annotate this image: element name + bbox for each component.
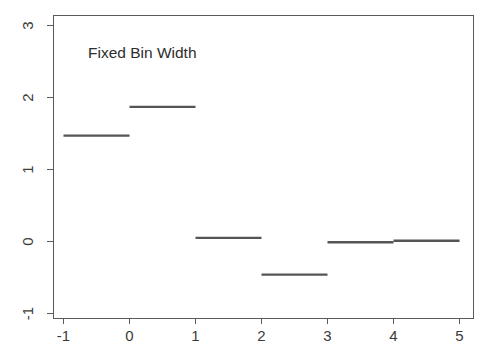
y-tick-label-1: 1 — [19, 165, 36, 173]
y-tick-label-0: 0 — [19, 237, 36, 245]
x-axis-labels: -1 0 1 2 3 4 5 — [57, 327, 464, 344]
y-tick-label-2: 2 — [19, 93, 36, 101]
x-tick-label-neg1: -1 — [57, 327, 70, 344]
x-tick-label-1: 1 — [191, 327, 199, 344]
y-tick-label-neg1: -1 — [19, 307, 36, 320]
regressogram-plot: 3 2 1 0 -1 -1 0 1 2 3 4 5 F — [0, 0, 496, 355]
y-tick-label-3: 3 — [19, 21, 36, 29]
x-tick-label-2: 2 — [257, 327, 265, 344]
x-tick-label-4: 4 — [389, 327, 397, 344]
step-segments — [64, 107, 460, 275]
x-tick-label-5: 5 — [455, 327, 463, 344]
y-axis-labels: 3 2 1 0 -1 — [19, 21, 36, 320]
x-tick-label-0: 0 — [125, 327, 133, 344]
y-axis-ticks — [47, 26, 53, 314]
chart-screenshot: 3 2 1 0 -1 -1 0 1 2 3 4 5 F — [0, 0, 496, 355]
plot-title: Fixed Bin Width — [88, 44, 197, 61]
x-tick-label-3: 3 — [323, 327, 331, 344]
